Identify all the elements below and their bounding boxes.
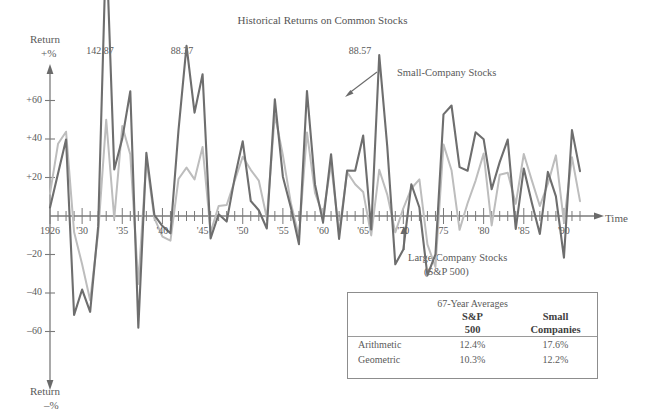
data-series-group (50, 0, 580, 328)
series-line-small-company (50, 0, 580, 328)
table-header-row-2: 500 Companies (348, 323, 597, 337)
series-line-sp500 (50, 115, 580, 301)
y-tick-label: –40 (16, 286, 42, 297)
y-tick-label: –60 (16, 325, 42, 336)
table-row: Geometric 10.3% 12.2% (348, 352, 597, 367)
col-head-small-line1: Small (514, 310, 597, 323)
y-axis-arrow-down-icon (47, 380, 54, 390)
cell-arithmetic-small: 17.6% (514, 337, 597, 353)
row-label-arithmetic: Arithmetic (348, 337, 431, 353)
x-tick-label: '40 (142, 225, 182, 236)
averages-table-body: Arithmetic 12.4% 17.6% Geometric 10.3% 1… (348, 337, 597, 368)
x-tick-label: 75 (423, 225, 463, 236)
x-tick-label: '55 (263, 225, 303, 236)
leader-line-small-company (348, 72, 377, 94)
cell-arithmetic-sp500: 12.4% (431, 337, 514, 353)
y-axis-arrow-up-icon (47, 64, 54, 74)
averages-table-head: S&P Small 500 Companies (348, 310, 597, 337)
x-tick-label: '85 (504, 225, 544, 236)
x-tick-label: '60 (303, 225, 343, 236)
col-head-sp500-line2: 500 (431, 323, 514, 337)
col-head-small-line2: Companies (514, 323, 597, 337)
cell-geometric-small: 12.2% (514, 352, 597, 367)
chart-container: Historical Returns on Common Stocks Retu… (0, 0, 645, 416)
col-head-blank-1 (348, 310, 431, 323)
table-row: Arithmetic 12.4% 17.6% (348, 337, 597, 353)
table-header-row-1: S&P Small (348, 310, 597, 323)
averages-table: 67-Year Averages S&P Small 500 Companies… (347, 292, 598, 379)
y-tick-label: +60 (16, 94, 42, 105)
averages-table-caption: 67-Year Averages (348, 293, 597, 310)
x-tick-label: '50 (223, 225, 263, 236)
x-tick-label: '70 (383, 225, 423, 236)
y-tick-label: +40 (16, 132, 42, 143)
x-tick-label: '65 (343, 225, 383, 236)
x-tick-label: '45 (183, 225, 223, 236)
y-tick-label: –20 (16, 248, 42, 259)
x-tick-label: '80 (464, 225, 504, 236)
x-tick-label: '90 (544, 225, 584, 236)
averages-table-grid: S&P Small 500 Companies Arithmetic 12.4%… (348, 310, 597, 367)
cell-geometric-sp500: 10.3% (431, 352, 514, 367)
x-axis-arrow-icon (594, 213, 604, 220)
y-tick-label: +20 (16, 171, 42, 182)
col-head-sp500-line1: S&P (431, 310, 514, 323)
x-tick-label: '30 (62, 225, 102, 236)
col-head-blank-2 (348, 323, 431, 337)
row-label-geometric: Geometric (348, 352, 431, 367)
x-tick-label: '35 (102, 225, 142, 236)
